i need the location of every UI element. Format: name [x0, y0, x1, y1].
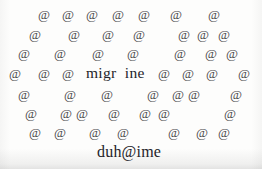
noise-at-glyph: @	[174, 47, 186, 60]
noise-at-glyph: @	[112, 8, 124, 21]
noise-at-glyph: @	[64, 88, 76, 101]
noise-at-glyph: @	[86, 8, 98, 21]
noise-at-glyph: @	[18, 88, 30, 101]
captcha-answer-word: duh@ime	[97, 144, 161, 160]
noise-at-glyph: @	[92, 47, 104, 60]
noise-at-glyph: @	[54, 47, 66, 60]
noise-at-glyph: @	[158, 107, 170, 120]
noise-at-glyph: @	[38, 67, 50, 80]
noise-at-glyph: @	[138, 8, 150, 21]
noise-at-glyph: @	[18, 47, 30, 60]
noise-at-glyph: @	[117, 126, 129, 139]
noise-at-glyph: @	[38, 8, 50, 21]
noise-at-glyph: @	[54, 126, 66, 139]
noise-at-glyph: @	[147, 88, 159, 101]
noise-at-glyph: @	[224, 107, 236, 120]
noise-at-glyph: @	[206, 67, 218, 80]
noise-at-glyph: @	[218, 28, 230, 41]
noise-at-glyph: @	[182, 67, 194, 80]
noise-at-glyph: @	[89, 126, 101, 139]
noise-at-glyph: @	[168, 126, 180, 139]
noise-at-glyph: @	[226, 47, 238, 60]
noise-at-glyph: @	[102, 28, 114, 41]
noise-at-glyph: @	[127, 47, 139, 60]
noise-at-glyph: @	[238, 67, 250, 80]
noise-at-glyph: @	[196, 126, 208, 139]
noise-at-glyph: @	[230, 88, 242, 101]
noise-at-glyph: @	[139, 107, 151, 120]
noise-at-glyph: @	[60, 107, 72, 120]
noise-at-glyph: @	[108, 107, 120, 120]
noise-at-glyph: @	[172, 88, 184, 101]
noise-at-glyph: @	[178, 28, 190, 41]
captcha-image: @@@@@@@@@@@@@@@@@@@@@@@@@@@@@@@@@@@@@@@@…	[0, 0, 262, 169]
noise-at-glyph: @	[197, 28, 209, 41]
noise-at-glyph: @	[158, 67, 170, 80]
noise-at-glyph: @	[101, 88, 113, 101]
noise-at-glyph: @	[205, 47, 217, 60]
noise-at-glyph: @	[76, 107, 88, 120]
noise-at-glyph: @	[208, 8, 220, 21]
captcha-challenge-word: migr ine	[86, 65, 145, 81]
noise-at-glyph: @	[133, 28, 145, 41]
noise-at-glyph: @	[25, 107, 37, 120]
noise-at-glyph: @	[188, 88, 200, 101]
noise-at-glyph: @	[68, 28, 80, 41]
noise-at-glyph: @	[29, 126, 41, 139]
noise-at-glyph: @	[218, 126, 230, 139]
noise-at-glyph: @	[170, 8, 182, 21]
noise-at-glyph: @	[29, 28, 41, 41]
noise-at-glyph: @	[62, 67, 74, 80]
noise-at-glyph: @	[62, 8, 74, 21]
noise-at-glyph: @	[9, 67, 21, 80]
